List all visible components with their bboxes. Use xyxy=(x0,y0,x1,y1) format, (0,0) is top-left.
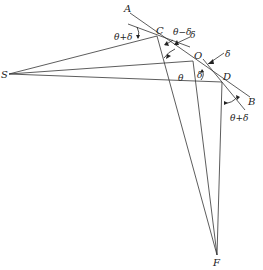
label-a: A xyxy=(123,3,131,14)
angle-label-delta-top: δ xyxy=(190,30,195,40)
angle-label-theta-plus-delta-left: θ+δ xyxy=(114,32,132,42)
angle-label-theta-minus-delta: θ−δ xyxy=(173,27,191,37)
label-s: S xyxy=(1,69,8,80)
arrow-icon xyxy=(224,101,228,105)
angle-label-theta-mid: θ xyxy=(178,73,184,83)
ray-c-f xyxy=(157,36,217,255)
angle-label-theta-plus-delta-right: θ+δ xyxy=(230,113,248,123)
label-b: B xyxy=(247,96,255,107)
ray-d-f xyxy=(217,82,222,255)
diagram-canvas: A C O D B S F θ+δ θ−δ δ δ δ θ θ+δ xyxy=(0,0,263,270)
geometry-diagram: A C O D B S F θ+δ θ−δ δ δ δ θ θ+δ xyxy=(0,0,263,270)
arrow-icon xyxy=(208,59,214,64)
arrow-icon xyxy=(136,35,140,39)
angle-label-delta-right: δ xyxy=(225,49,230,59)
label-c: C xyxy=(156,25,164,36)
arrow-icon xyxy=(164,41,169,46)
label-f: F xyxy=(212,257,221,268)
ray-o-f xyxy=(193,61,217,255)
line-ab xyxy=(130,13,250,97)
label-o: O xyxy=(194,50,202,61)
angle-label-delta-mid: δ xyxy=(197,70,202,80)
ray-s-c xyxy=(9,36,157,74)
label-d: D xyxy=(222,71,231,82)
ray-s-d xyxy=(9,74,222,82)
